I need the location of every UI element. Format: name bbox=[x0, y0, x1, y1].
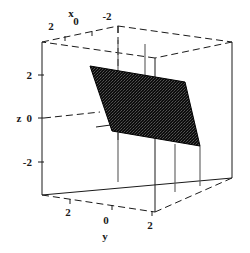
y-axis-ticks bbox=[70, 199, 152, 216]
y-axis-title: y bbox=[102, 230, 108, 242]
z-axis-title: z bbox=[17, 112, 22, 124]
z-axis-ticks bbox=[38, 75, 44, 162]
y-tick-label-left: 2 bbox=[65, 206, 71, 218]
surface-plane bbox=[90, 66, 200, 146]
bottom-edge-back-diagonal bbox=[42, 178, 232, 195]
3d-surface-plot: x y z 2 0 -2 2 0 -2 2 0 2 bbox=[0, 0, 250, 253]
top-edge-front-left bbox=[42, 42, 155, 58]
top-edge-back-right bbox=[118, 26, 232, 42]
top-edge-front-right bbox=[155, 42, 232, 58]
z-zero-dashed-left bbox=[44, 112, 100, 118]
x-tick-label-minus2: -2 bbox=[102, 10, 112, 22]
plane-polygon bbox=[90, 66, 200, 146]
y-tick-label-mid: 0 bbox=[103, 214, 109, 226]
x-tick-label-0: 0 bbox=[73, 15, 79, 27]
plot-canvas: x y z 2 0 -2 2 0 -2 2 0 2 bbox=[0, 0, 250, 253]
x-tick-label-2: 2 bbox=[48, 20, 54, 32]
bottom-edge-front-right bbox=[155, 178, 232, 212]
z-tick-label-minus2: -2 bbox=[23, 156, 33, 168]
z-tick-label-0: 0 bbox=[27, 112, 33, 124]
x-axis-ticks bbox=[65, 26, 118, 41]
y-tick-label-right: 2 bbox=[147, 219, 153, 231]
z-tick-label-2: 2 bbox=[27, 69, 33, 81]
bottom-edge-front-left bbox=[42, 195, 155, 212]
